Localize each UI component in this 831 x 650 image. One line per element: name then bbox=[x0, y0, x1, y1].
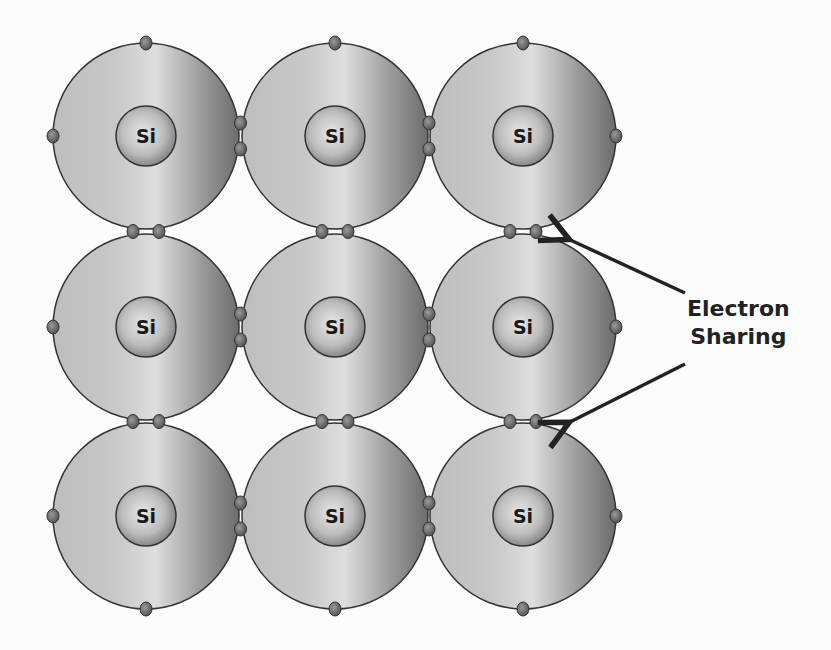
electron-icon bbox=[610, 129, 622, 143]
electron-icon bbox=[610, 320, 622, 334]
atom-symbol: Si bbox=[136, 125, 156, 147]
electron-icon bbox=[140, 36, 152, 50]
electron-icon bbox=[610, 509, 622, 523]
electron-icon bbox=[235, 116, 247, 130]
electron-icon bbox=[127, 415, 139, 429]
electron-icon bbox=[423, 496, 435, 510]
electron-icon bbox=[140, 602, 152, 616]
electron-icon bbox=[235, 142, 247, 156]
electron-icon bbox=[530, 225, 542, 239]
silicon-atom: Si bbox=[242, 43, 428, 229]
electron-icon bbox=[47, 129, 59, 143]
electron-icon bbox=[47, 320, 59, 334]
atom-symbol: Si bbox=[325, 505, 345, 527]
electron-icon bbox=[342, 225, 354, 239]
atom-symbol: Si bbox=[513, 316, 533, 338]
silicon-atom: Si bbox=[430, 234, 616, 420]
silicon-lattice-diagram: SiSiSiSiSiSiSiSiSi Electron Sharing bbox=[0, 0, 831, 650]
atom-symbol: Si bbox=[325, 125, 345, 147]
atom-symbol: Si bbox=[136, 316, 156, 338]
silicon-atom: Si bbox=[242, 234, 428, 420]
silicon-atom: Si bbox=[53, 43, 239, 229]
electron-icon bbox=[153, 415, 165, 429]
silicon-atom: Si bbox=[430, 43, 616, 229]
atom-symbol: Si bbox=[513, 125, 533, 147]
electron-icon bbox=[329, 36, 341, 50]
electron-icon bbox=[423, 116, 435, 130]
silicon-atom: Si bbox=[430, 423, 616, 609]
electron-icon bbox=[235, 496, 247, 510]
electron-icon bbox=[530, 415, 542, 429]
electron-icon bbox=[504, 415, 516, 429]
electron-icon bbox=[235, 522, 247, 536]
electron-icon bbox=[329, 602, 341, 616]
atoms-group: SiSiSiSiSiSiSiSiSi bbox=[53, 43, 616, 609]
electron-icon bbox=[235, 333, 247, 347]
electron-icon bbox=[127, 225, 139, 239]
electron-sharing-label: Electron Sharing bbox=[687, 295, 790, 351]
label-line-2: Sharing bbox=[687, 323, 790, 351]
electron-icon bbox=[316, 415, 328, 429]
electron-icon bbox=[235, 307, 247, 321]
electron-icon bbox=[423, 522, 435, 536]
electron-icon bbox=[316, 225, 328, 239]
silicon-atom: Si bbox=[53, 423, 239, 609]
electron-icon bbox=[342, 415, 354, 429]
electron-icon bbox=[504, 225, 516, 239]
electron-icon bbox=[423, 142, 435, 156]
silicon-atom: Si bbox=[53, 234, 239, 420]
atom-symbol: Si bbox=[136, 505, 156, 527]
electron-icon bbox=[47, 509, 59, 523]
electron-icon bbox=[517, 36, 529, 50]
label-line-1: Electron bbox=[687, 295, 790, 323]
atom-symbol: Si bbox=[513, 505, 533, 527]
electron-icon bbox=[423, 307, 435, 321]
silicon-atom: Si bbox=[242, 423, 428, 609]
electron-icon bbox=[517, 602, 529, 616]
electron-icon bbox=[153, 225, 165, 239]
electron-icon bbox=[423, 333, 435, 347]
atom-symbol: Si bbox=[325, 316, 345, 338]
